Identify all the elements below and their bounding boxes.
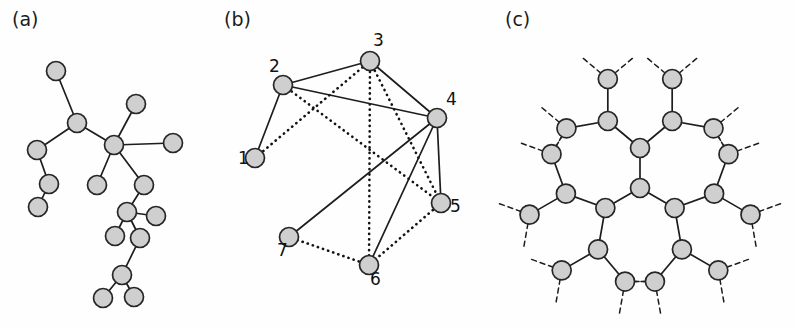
node-3[interactable] (361, 52, 380, 71)
node-a8[interactable] (164, 134, 183, 153)
tree-node[interactable] (645, 272, 664, 291)
node-a3[interactable] (28, 141, 47, 160)
tree-node[interactable] (705, 184, 724, 203)
node-a4[interactable] (40, 175, 59, 194)
tree-node[interactable] (552, 261, 571, 280)
panel-label-a: (a) (12, 8, 38, 30)
node-a1[interactable] (47, 62, 66, 81)
panel-labels: (a)(b)(c) (12, 8, 530, 30)
solid-edge-4-7 (289, 118, 437, 237)
node-a2[interactable] (68, 114, 87, 133)
figure-container: 1234567 (a)(b)(c) (0, 0, 794, 329)
node-label-5: 5 (450, 196, 461, 216)
tree-node[interactable] (542, 145, 561, 164)
tree-node[interactable] (596, 199, 615, 218)
tree-node[interactable] (709, 261, 728, 280)
node-a16[interactable] (94, 289, 113, 308)
dotted-edge-6-7 (289, 237, 369, 265)
node-a11[interactable] (118, 203, 137, 222)
node-a6[interactable] (105, 136, 124, 155)
node-2[interactable] (274, 76, 293, 95)
node-label-3: 3 (373, 30, 384, 50)
panel-a (28, 62, 183, 308)
panel-c (499, 58, 780, 313)
panel-label-c: (c) (505, 8, 530, 30)
figure-svg: 1234567 (a)(b)(c) (0, 0, 794, 329)
tree-node[interactable] (741, 205, 760, 224)
tree-node[interactable] (672, 240, 691, 259)
node-label-6: 6 (370, 269, 381, 289)
tree-node[interactable] (665, 199, 684, 218)
node-4[interactable] (428, 109, 447, 128)
dotted-edge-5-6 (369, 203, 441, 265)
node-label-2: 2 (269, 56, 280, 76)
solid-edge-2-3 (283, 61, 370, 85)
tree-node[interactable] (589, 240, 608, 259)
node-a15[interactable] (113, 266, 132, 285)
node-label-1: 1 (238, 148, 249, 168)
node-label-7: 7 (277, 240, 288, 260)
tree-node[interactable] (598, 112, 617, 131)
node-a13[interactable] (106, 227, 125, 246)
node-a7[interactable] (127, 95, 146, 114)
tree-node[interactable] (719, 145, 738, 164)
solid-edge-3-4 (370, 61, 437, 118)
tree-node[interactable] (631, 139, 650, 158)
tree-node[interactable] (704, 119, 723, 138)
node-a12[interactable] (147, 207, 166, 226)
panel-label-b: (b) (224, 8, 251, 30)
tree-node[interactable] (520, 205, 539, 224)
node-a14[interactable] (131, 229, 150, 248)
tree-node[interactable] (663, 70, 682, 89)
tree-node[interactable] (663, 112, 682, 131)
node-5[interactable] (432, 194, 451, 213)
tree-node[interactable] (556, 184, 575, 203)
tree-node[interactable] (616, 272, 635, 291)
node-a9[interactable] (88, 176, 107, 195)
node-a5[interactable] (29, 198, 48, 217)
node-a17[interactable] (125, 288, 144, 307)
node-label-4: 4 (446, 89, 457, 109)
dotted-edge-3-6 (369, 61, 370, 265)
tree-node[interactable] (557, 119, 576, 138)
node-a10[interactable] (135, 176, 154, 195)
tree-center-node[interactable] (631, 179, 650, 198)
solid-edge-2-1 (255, 85, 283, 158)
solid-edge-4-5 (437, 118, 441, 203)
solid-edge-2-4 (283, 85, 437, 118)
panel-b: 1234567 (238, 30, 461, 289)
tree-node[interactable] (598, 70, 617, 89)
